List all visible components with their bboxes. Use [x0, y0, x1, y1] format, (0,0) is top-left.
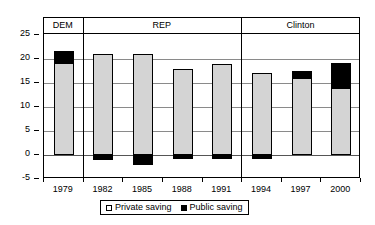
- region-separator-0: [83, 17, 84, 178]
- x-tick-label-1985: 1985: [122, 184, 162, 194]
- y-tick-20: [34, 58, 39, 59]
- y-tick-label--5: -5: [22, 172, 30, 182]
- zero-line: [44, 155, 359, 156]
- y-tick-0: [34, 154, 39, 155]
- plot-area: [43, 17, 360, 178]
- bar-private-1982: [93, 54, 113, 155]
- bar-private-1985: [133, 54, 153, 155]
- gridline-20: [44, 59, 359, 60]
- y-axis-line: [43, 17, 44, 178]
- y-tick-label-15: 15: [20, 76, 30, 86]
- x-tick-label-1979: 1979: [43, 184, 83, 194]
- bar-public-1997: [292, 71, 312, 78]
- x-tick-5: [241, 178, 242, 182]
- private-swatch-icon: [106, 205, 112, 211]
- x-tick-7: [320, 178, 321, 182]
- x-tick-label-1997: 1997: [281, 184, 321, 194]
- x-tick-label-1991: 1991: [201, 184, 241, 194]
- bar-private-1991: [212, 64, 232, 155]
- y-tick-15: [34, 82, 39, 83]
- bar-private-1979: [54, 63, 74, 155]
- legend-item-public: Public saving: [181, 202, 243, 213]
- bar-public-1985: [133, 155, 153, 165]
- saving-rates-stacked-bar-chart: -50510152025 DEMREPClinton 1979198219851…: [0, 0, 375, 225]
- public-swatch-icon: [181, 205, 187, 211]
- gridline-10: [44, 107, 359, 108]
- y-tick-label-20: 20: [20, 52, 30, 62]
- x-tick-label-1988: 1988: [162, 184, 202, 194]
- region-separator-1: [241, 17, 242, 178]
- bar-public-2000: [331, 63, 351, 88]
- gridline-15: [44, 83, 359, 84]
- y-tick-label-25: 25: [20, 28, 30, 38]
- x-tick-label-1982: 1982: [82, 184, 122, 194]
- bar-public-1982: [93, 155, 113, 160]
- x-tick-label-1994: 1994: [241, 184, 281, 194]
- x-tick-3: [162, 178, 163, 182]
- bar-private-1994: [252, 73, 272, 155]
- gridline-5: [44, 131, 359, 132]
- y-tick-25: [34, 34, 39, 35]
- y-tick-10: [34, 106, 39, 107]
- y-tick--5: [34, 178, 39, 179]
- chart-legend: Private saving Public saving: [100, 200, 249, 215]
- legend-item-private: Private saving: [106, 202, 172, 213]
- legend-label-public: Public saving: [190, 202, 243, 213]
- bar-public-1988: [173, 155, 193, 159]
- y-tick-label-0: 0: [25, 148, 30, 158]
- legend-label-private: Private saving: [115, 202, 172, 213]
- administration-band: DEMREPClinton: [43, 17, 360, 34]
- x-tick-1: [83, 178, 84, 182]
- x-tick-8: [360, 178, 361, 182]
- bar-private-1997: [292, 78, 312, 155]
- bar-public-1991: [212, 155, 232, 159]
- bar-public-1994: [252, 155, 272, 159]
- administration-label-clinton: Clinton: [241, 17, 360, 33]
- x-tick-0: [43, 178, 44, 182]
- bar-public-1979: [54, 51, 74, 63]
- y-tick-label-5: 5: [25, 124, 30, 134]
- x-tick-4: [202, 178, 203, 182]
- administration-label-dem: DEM: [43, 17, 83, 33]
- x-tick-label-2000: 2000: [320, 184, 360, 194]
- y-axis-labels: -50510152025: [0, 0, 38, 225]
- bar-private-1988: [173, 69, 193, 155]
- x-tick-2: [122, 178, 123, 182]
- administration-label-rep: REP: [83, 17, 242, 33]
- y-tick-5: [34, 130, 39, 131]
- bar-private-2000: [331, 88, 351, 155]
- y-tick-label-10: 10: [20, 100, 30, 110]
- x-tick-6: [281, 178, 282, 182]
